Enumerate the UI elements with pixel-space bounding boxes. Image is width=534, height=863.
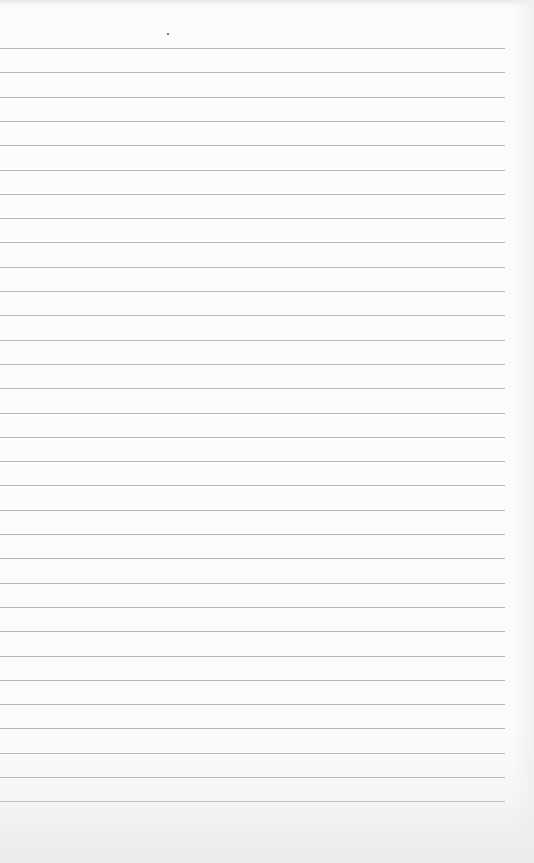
ruled-line xyxy=(0,145,505,146)
ruled-line xyxy=(0,364,505,365)
ruled-line xyxy=(0,534,505,535)
paper-speck xyxy=(167,33,169,35)
ruled-line xyxy=(0,461,505,462)
paper-top-edge-shadow xyxy=(0,0,534,6)
paper-right-edge-shadow xyxy=(512,0,534,863)
ruled-line xyxy=(0,340,505,341)
ruled-line xyxy=(0,242,505,243)
ruled-line xyxy=(0,485,505,486)
ruled-line xyxy=(0,194,505,195)
ruled-line xyxy=(0,680,505,681)
ruled-line xyxy=(0,728,505,729)
ruled-line xyxy=(0,48,505,49)
ruled-line xyxy=(0,631,505,632)
paper-bottom-edge-shadow xyxy=(0,793,534,863)
ruled-line xyxy=(0,267,505,268)
ruled-line xyxy=(0,558,505,559)
ruled-line xyxy=(0,72,505,73)
ruled-line xyxy=(0,777,505,778)
lined-paper-sheet xyxy=(0,0,534,863)
ruled-line xyxy=(0,413,505,414)
ruled-line xyxy=(0,753,505,754)
ruled-line xyxy=(0,510,505,511)
ruled-line xyxy=(0,170,505,171)
ruled-line xyxy=(0,704,505,705)
ruled-line xyxy=(0,656,505,657)
ruled-line xyxy=(0,388,505,389)
ruled-line xyxy=(0,218,505,219)
ruled-line xyxy=(0,583,505,584)
ruled-line xyxy=(0,291,505,292)
ruled-line xyxy=(0,315,505,316)
ruled-line xyxy=(0,121,505,122)
ruled-line xyxy=(0,437,505,438)
ruled-line xyxy=(0,97,505,98)
ruled-line xyxy=(0,607,505,608)
